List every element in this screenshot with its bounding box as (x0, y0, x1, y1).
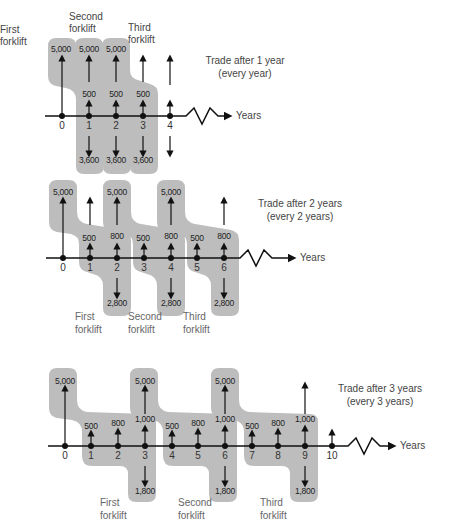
value-label: 3,600 (106, 155, 126, 165)
tick-label: 10 (326, 450, 337, 461)
tick-label: 7 (249, 450, 255, 461)
second-forklift-label: Secondforklift (69, 11, 103, 35)
tick-label: 0 (59, 120, 65, 131)
value-label: 1,000 (215, 414, 235, 424)
value-label: 5,000 (51, 44, 71, 54)
panel-1-title: Trade after 1 year(every year) (185, 54, 305, 80)
panel-2-title: Trade after 2 years(every 2 years) (240, 197, 360, 223)
tick-label: 9 (302, 450, 308, 461)
tick-label: 4 (168, 262, 174, 273)
value-label: 5,000 (215, 376, 235, 386)
value-label: 800 (164, 231, 177, 241)
tick-label: 2 (113, 120, 119, 131)
tick-label: 3 (142, 450, 148, 461)
second-forklift-label: Secondforklift (128, 310, 162, 336)
tick-label: 1 (86, 120, 92, 131)
panel-3-title: Trade after 3 years(every 3 years) (320, 382, 440, 408)
second-forklift-label: Secondforklift (178, 496, 212, 522)
tick-label: 1 (88, 450, 94, 461)
value-label: 500 (190, 233, 203, 243)
value-label: 800 (111, 418, 124, 428)
value-label: 1,000 (295, 414, 315, 424)
tick-label: 4 (169, 450, 175, 461)
value-label: 500 (245, 421, 258, 431)
value-label: 1,000 (135, 414, 155, 424)
value-label: 500 (82, 89, 95, 99)
tick-label: 3 (140, 120, 146, 131)
panel-1-axis-label: Years (236, 110, 261, 121)
value-label: 500 (136, 89, 149, 99)
value-label: 5,000 (107, 187, 127, 197)
tick-label: 8 (275, 450, 281, 461)
value-label: 2,800 (161, 298, 181, 308)
third-forklift-label: Thirdforklift (128, 22, 155, 46)
tick-label: 5 (194, 262, 200, 273)
first-forklift-label: Firstforklift (0, 24, 27, 48)
first-forklift-label: Firstforklift (100, 496, 127, 522)
value-label: 5,000 (135, 376, 155, 386)
value-label: 1,800 (295, 486, 315, 496)
tick-label: 5 (195, 450, 201, 461)
value-label: 800 (191, 418, 204, 428)
value-label: 500 (82, 233, 95, 243)
value-label: 5,000 (106, 44, 126, 54)
value-label: 5,000 (53, 187, 73, 197)
value-label: 2,800 (107, 298, 127, 308)
value-label: 500 (84, 421, 97, 431)
tick-label: 0 (62, 450, 68, 461)
value-label: 500 (109, 89, 122, 99)
value-label: 1,800 (135, 486, 155, 496)
tick-label: 6 (221, 262, 227, 273)
value-label: 3,600 (133, 155, 153, 165)
value-label: 1,800 (215, 486, 235, 496)
value-label: 500 (165, 421, 178, 431)
tick-label: 2 (115, 450, 121, 461)
tick-label: 6 (222, 450, 228, 461)
value-label: 3,600 (79, 155, 99, 165)
value-label: 800 (110, 231, 123, 241)
tick-label: 4 (167, 120, 173, 131)
value-label: 5,000 (79, 44, 99, 54)
tick-label: 0 (60, 262, 66, 273)
panel-2-axis-label: Years (300, 252, 325, 263)
value-label: 800 (271, 418, 284, 428)
tick-label: 1 (87, 262, 93, 273)
third-forklift-label: Thirdforklift (183, 310, 210, 336)
tick-label: 2 (114, 262, 120, 273)
value-label: 2,800 (214, 298, 234, 308)
value-label: 500 (136, 233, 149, 243)
panel-3-axis-label: Years (400, 440, 425, 451)
value-label: 5,000 (161, 187, 181, 197)
value-label: 800 (217, 231, 230, 241)
tick-label: 3 (141, 262, 147, 273)
first-forklift-label: Firstforklift (75, 310, 102, 336)
value-label: 5,000 (55, 376, 75, 386)
third-forklift-label: Thirdforklift (260, 496, 287, 522)
panel-1-shading (48, 38, 158, 174)
